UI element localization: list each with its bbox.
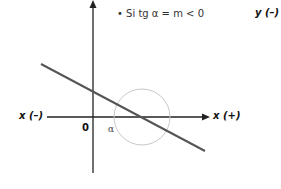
condition-text: Si tg α = m < 0 <box>126 8 204 19</box>
angle-label: α <box>108 124 114 134</box>
slope-condition: • Si tg α = m < 0 <box>117 8 204 19</box>
x-axis-arrow-icon <box>202 114 210 121</box>
x-positive-label: x (+) <box>213 110 240 121</box>
y-axis-arrow-icon <box>90 0 97 8</box>
bullet: • <box>117 8 123 19</box>
x-negative-label: x (–) <box>19 110 43 121</box>
y-negative-label: y (–) <box>255 7 279 18</box>
origin-label: 0 <box>82 122 89 133</box>
diagram-canvas <box>0 0 281 189</box>
